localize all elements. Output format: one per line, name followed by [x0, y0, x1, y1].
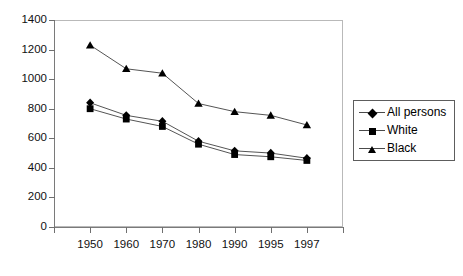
y-axis-label: 800	[5, 103, 47, 114]
y-axis-tick	[49, 20, 55, 21]
y-axis-label: 1200	[5, 44, 47, 55]
y-axis-tick	[49, 197, 55, 198]
legend-item-white: White	[359, 122, 453, 139]
legend-label: Black	[385, 142, 416, 155]
y-axis-label: 0	[5, 221, 47, 232]
x-axis-tick	[54, 227, 55, 233]
y-axis-tick	[49, 168, 55, 169]
legend-item-black: Black	[359, 140, 453, 157]
y-axis-tick	[49, 50, 55, 51]
plot-area	[54, 20, 343, 227]
triangle-marker-icon	[359, 142, 385, 156]
x-axis-tick	[90, 227, 91, 233]
legend-label: All persons	[385, 106, 446, 119]
x-axis-tick	[235, 227, 236, 233]
y-axis-label: 1400	[5, 14, 47, 25]
x-axis-tick	[271, 227, 272, 233]
y-axis-label: 200	[5, 191, 47, 202]
square-marker-icon	[359, 124, 385, 138]
x-axis-tick	[162, 227, 163, 233]
y-axis-tick	[49, 138, 55, 139]
x-axis-tick	[343, 227, 344, 233]
x-axis-tick	[307, 227, 308, 233]
diamond-marker-icon	[359, 106, 385, 120]
legend-label: White	[385, 124, 418, 137]
y-axis-label: 400	[5, 162, 47, 173]
x-axis-tick	[199, 227, 200, 233]
x-axis-label: 1997	[285, 238, 329, 251]
y-axis-tick	[49, 79, 55, 80]
y-axis-label: 1000	[5, 73, 47, 84]
legend-item-all-persons: All persons	[359, 104, 453, 121]
y-axis-tick	[49, 109, 55, 110]
x-axis-tick	[126, 227, 127, 233]
chart-legend: All persons White Black	[353, 100, 455, 161]
line-chart: 0200400600800100012001400 19501960197019…	[0, 0, 463, 276]
y-axis-label: 600	[5, 132, 47, 143]
